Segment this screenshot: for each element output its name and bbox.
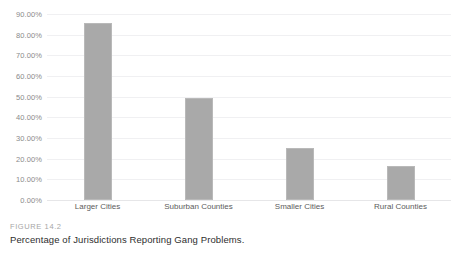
y-axis-tick-label: 10.00% bbox=[16, 175, 42, 184]
figure-caption: FIGURE 14.2 Percentage of Jurisdictions … bbox=[10, 222, 440, 245]
x-axis-category-label: Larger Cities bbox=[75, 202, 120, 211]
y-axis-tick-label: 40.00% bbox=[16, 113, 42, 122]
x-axis-category-label: Rural Counties bbox=[374, 202, 427, 211]
bar-slot bbox=[47, 14, 148, 200]
bar[interactable] bbox=[84, 23, 112, 200]
figure-title-label: Percentage of Jurisdictions Reporting Ga… bbox=[10, 234, 440, 245]
x-axis-category-label: Suburban Counties bbox=[164, 202, 233, 211]
bar-slot bbox=[148, 14, 249, 200]
y-axis-tick-label: 50.00% bbox=[16, 92, 42, 101]
bar-chart: 0.00%10.00%20.00%30.00%40.00%50.00%60.00… bbox=[0, 0, 455, 212]
bar[interactable] bbox=[286, 148, 314, 200]
y-axis-tick-label: 60.00% bbox=[16, 72, 42, 81]
x-axis-category-label: Smaller Cities bbox=[275, 202, 324, 211]
bar-slot bbox=[249, 14, 350, 200]
bar-slot bbox=[350, 14, 451, 200]
bar[interactable] bbox=[185, 98, 213, 200]
y-axis-tick-label: 20.00% bbox=[16, 154, 42, 163]
bar[interactable] bbox=[387, 166, 415, 200]
axis-baseline bbox=[47, 200, 451, 201]
figure-container: 0.00%10.00%20.00%30.00%40.00%50.00%60.00… bbox=[0, 0, 455, 256]
figure-number-label: FIGURE 14.2 bbox=[10, 222, 440, 231]
y-axis-tick-label: 0.00% bbox=[20, 196, 42, 205]
y-axis-tick-label: 90.00% bbox=[16, 10, 42, 19]
plot-area bbox=[47, 14, 451, 200]
y-axis-tick-label: 30.00% bbox=[16, 134, 42, 143]
y-axis-tick-label: 70.00% bbox=[16, 51, 42, 60]
y-axis-tick-label: 80.00% bbox=[16, 30, 42, 39]
y-axis: 0.00%10.00%20.00%30.00%40.00%50.00%60.00… bbox=[0, 0, 46, 212]
bars-group bbox=[47, 14, 451, 200]
x-axis: Larger CitiesSuburban CountiesSmaller Ci… bbox=[47, 202, 451, 218]
